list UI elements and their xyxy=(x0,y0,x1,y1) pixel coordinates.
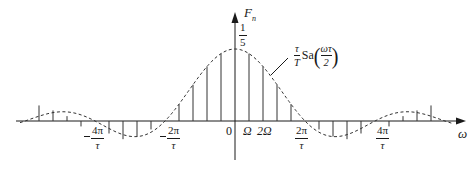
y-axis-subscript: n xyxy=(252,14,256,23)
argument-fraction: ωτ 2 xyxy=(321,43,332,68)
origin-label: 0 xyxy=(226,125,232,137)
x-axis-label: ω xyxy=(458,127,467,140)
peak-value-label: 1 5 xyxy=(239,22,247,48)
tick-label-pos-2pi: 2π τ xyxy=(295,125,308,151)
minus-sign xyxy=(160,136,166,137)
spectrum-diagram xyxy=(0,0,473,171)
y-axis-label: Fn xyxy=(244,6,256,23)
tick-label-pos-4pi: 4π τ xyxy=(376,125,389,151)
annotation-leader-line xyxy=(271,58,288,75)
tick-label-neg-2pi: 2π τ xyxy=(167,125,180,151)
tick-label-neg-4pi: 4π τ xyxy=(91,125,104,151)
two-omega-label: 2Ω xyxy=(257,125,272,137)
left-paren: ( xyxy=(314,44,321,67)
x-axis-arrow-icon xyxy=(456,118,466,125)
envelope-annotation: τ T Sa ( ωτ 2 ) xyxy=(294,43,338,68)
y-axis-arrow-icon xyxy=(232,12,239,23)
sa-function-label: Sa xyxy=(302,48,314,63)
coef-fraction: τ T xyxy=(294,43,300,68)
omega-label: Ω xyxy=(243,125,252,137)
minus-sign xyxy=(84,136,90,137)
right-paren: ) xyxy=(332,44,339,67)
